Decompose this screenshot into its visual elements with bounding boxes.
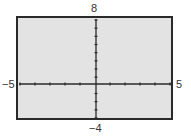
axes bbox=[0, 0, 191, 138]
y-min-label: −4 bbox=[89, 123, 102, 134]
y-max-label: 8 bbox=[91, 3, 97, 14]
x-max-label: 5 bbox=[176, 79, 182, 90]
x-min-label: −5 bbox=[2, 79, 15, 90]
